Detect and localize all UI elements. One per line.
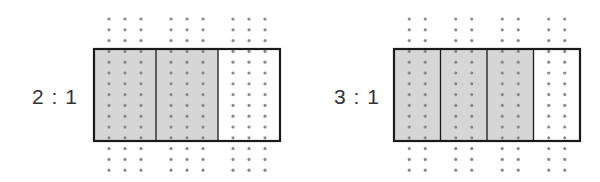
ratio-figure-3-1: 3 : 1: [300, 0, 600, 182]
grid-dot: [408, 125, 411, 128]
grid-dot: [247, 104, 250, 107]
grid-dot: [231, 104, 234, 107]
grid-dot: [408, 28, 411, 31]
grid-dot: [547, 147, 550, 150]
grid-dot: [185, 147, 188, 150]
grid-dot: [139, 104, 142, 107]
grid-dot: [107, 158, 110, 161]
grid-dot: [123, 93, 126, 96]
grid-dot: [263, 158, 266, 161]
grid-dot: [454, 115, 457, 118]
grid-dot: [247, 17, 250, 20]
grid-dot: [517, 50, 520, 53]
grid-dot: [169, 93, 172, 96]
grid-dot: [547, 28, 550, 31]
grid-dot: [408, 93, 411, 96]
grid-dot: [231, 17, 234, 20]
grid-dot: [547, 82, 550, 85]
grid-dot: [185, 50, 188, 53]
grid-dot: [185, 39, 188, 42]
grid-dot: [547, 169, 550, 172]
grid-dot: [169, 115, 172, 118]
ratio-bar-diagram: [300, 0, 600, 182]
grid-dot: [501, 169, 504, 172]
grid-dot: [470, 39, 473, 42]
grid-dot: [247, 71, 250, 74]
grid-dot: [123, 17, 126, 20]
grid-dot: [454, 82, 457, 85]
grid-dot: [231, 71, 234, 74]
grid-dot: [107, 125, 110, 128]
grid-dot: [517, 28, 520, 31]
grid-dot: [247, 61, 250, 64]
ratio-figure-2-1: 2 : 1: [0, 0, 300, 182]
grid-dot: [263, 17, 266, 20]
grid-dot: [547, 71, 550, 74]
grid-dot: [139, 39, 142, 42]
grid-dot: [424, 169, 427, 172]
grid-dot: [501, 39, 504, 42]
grid-dot: [563, 17, 566, 20]
grid-dot: [247, 115, 250, 118]
grid-dot: [408, 158, 411, 161]
grid-dot: [123, 50, 126, 53]
grid-dot: [201, 39, 204, 42]
grid-dot: [408, 169, 411, 172]
grid-dot: [454, 93, 457, 96]
grid-dot: [169, 71, 172, 74]
grid-dot: [201, 82, 204, 85]
grid-dot: [139, 82, 142, 85]
grid-dot: [547, 39, 550, 42]
grid-dot: [501, 115, 504, 118]
grid-dot: [454, 50, 457, 53]
grid-dot: [201, 28, 204, 31]
grid-dot: [201, 104, 204, 107]
grid-dot: [247, 39, 250, 42]
grid-dot: [454, 71, 457, 74]
grid-dot: [563, 93, 566, 96]
grid-dot: [454, 104, 457, 107]
grid-dot: [454, 169, 457, 172]
grid-dot: [547, 50, 550, 53]
grid-dot: [424, 71, 427, 74]
grid-dot: [231, 28, 234, 31]
grid-dot: [263, 50, 266, 53]
grid-dot: [169, 50, 172, 53]
grid-dot: [470, 71, 473, 74]
shaded-part: [394, 49, 441, 141]
grid-dot: [139, 28, 142, 31]
grid-dot: [501, 104, 504, 107]
grid-dot: [501, 136, 504, 139]
grid-dot: [201, 169, 204, 172]
grid-dot: [263, 125, 266, 128]
grid-dot: [517, 158, 520, 161]
grid-dot: [123, 28, 126, 31]
grid-dot: [501, 61, 504, 64]
grid-dot: [231, 39, 234, 42]
grid-dot: [424, 28, 427, 31]
grid-dot: [517, 71, 520, 74]
grid-dot: [408, 17, 411, 20]
grid-dot: [201, 93, 204, 96]
grid-dot: [185, 169, 188, 172]
grid-dot: [424, 50, 427, 53]
grid-dot: [470, 93, 473, 96]
grid-dot: [107, 82, 110, 85]
grid-dot: [123, 82, 126, 85]
grid-dot: [563, 61, 566, 64]
grid-dot: [169, 39, 172, 42]
grid-dot: [424, 147, 427, 150]
grid-dot: [470, 17, 473, 20]
grid-dot: [263, 28, 266, 31]
grid-dot: [247, 82, 250, 85]
grid-dot: [185, 82, 188, 85]
grid-dot: [517, 82, 520, 85]
grid-dot: [247, 169, 250, 172]
grid-dot: [470, 61, 473, 64]
grid-dot: [517, 147, 520, 150]
grid-dot: [408, 115, 411, 118]
grid-dot: [201, 158, 204, 161]
grid-dot: [470, 147, 473, 150]
grid-dot: [563, 82, 566, 85]
grid-dot: [231, 147, 234, 150]
